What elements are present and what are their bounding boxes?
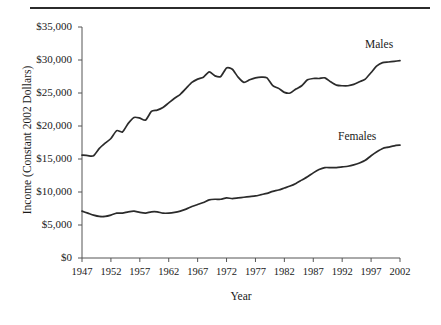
- series-line-females: [82, 145, 400, 216]
- axis-lines: [82, 27, 400, 258]
- y-tick-label: $10,000: [4, 185, 72, 197]
- y-tick-marks: [78, 27, 82, 258]
- y-tick-label: $30,000: [4, 53, 72, 65]
- y-tick-label: $15,000: [4, 152, 72, 164]
- y-tick-label: $25,000: [4, 86, 72, 98]
- y-tick-label: $20,000: [4, 119, 72, 131]
- y-tick-label: $35,000: [4, 20, 72, 32]
- x-tick-marks: [82, 258, 400, 262]
- y-tick-label: $5,000: [4, 218, 72, 230]
- y-tick-label: $0: [4, 251, 72, 263]
- chart-figure: Income (Constant 2002 Dollars) Year $0$5…: [0, 0, 441, 325]
- x-tick-label: 2002: [380, 266, 420, 277]
- series-annotation-males: Males: [365, 38, 393, 50]
- series-annotation-females: Females: [338, 130, 376, 142]
